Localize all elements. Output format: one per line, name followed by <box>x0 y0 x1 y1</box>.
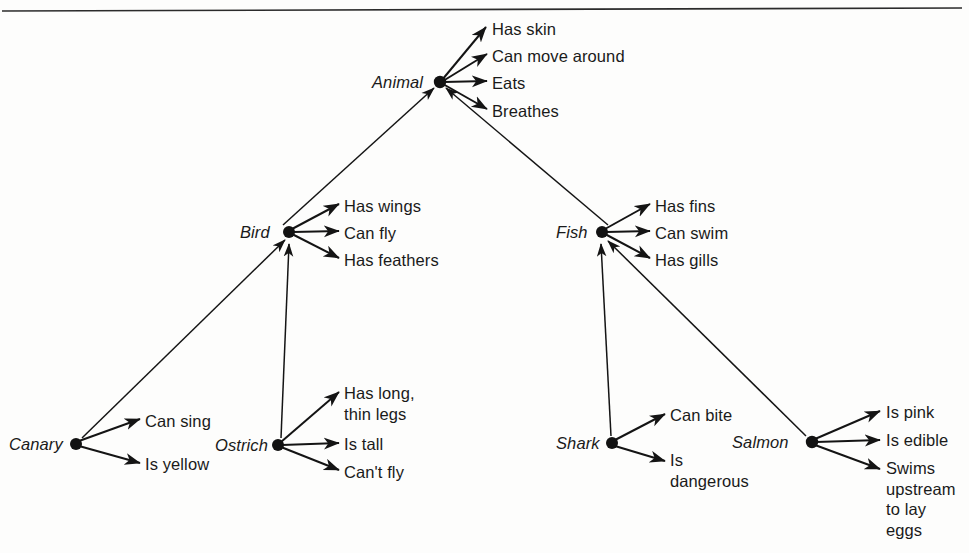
property-text-line: Breathes <box>492 101 559 122</box>
property-label-ostrich-0[interactable]: Has long,thin legs <box>344 383 415 424</box>
edge-fish-has-fins <box>605 204 650 229</box>
property-label-ostrich-2[interactable]: Can't fly <box>344 462 404 483</box>
node-dot-bird[interactable] <box>283 226 295 238</box>
concept-label-canary[interactable]: Canary <box>9 436 63 453</box>
concept-label-animal[interactable]: Animal <box>372 74 423 91</box>
property-edges-canary <box>79 419 140 463</box>
edge-animal-eats <box>444 81 487 82</box>
concept-label-ostrich[interactable]: Ostrich <box>215 437 268 454</box>
property-label-bird-1[interactable]: Can fly <box>344 223 396 244</box>
edge-bird-has-feathers <box>292 234 339 258</box>
edge-canary-is-yellow <box>79 446 140 463</box>
property-text-line: Can swim <box>655 223 728 244</box>
node-dot-shark[interactable] <box>606 437 618 449</box>
concept-label-salmon[interactable]: Salmon <box>732 434 789 451</box>
property-edges-shark <box>615 414 665 461</box>
property-text-line: Has long, <box>344 383 415 404</box>
property-edges-fish <box>605 204 650 258</box>
edge-animal-can-move-around <box>443 54 487 81</box>
property-label-animal-3[interactable]: Breathes <box>492 101 559 122</box>
property-text-line: to lay <box>886 499 956 520</box>
property-label-shark-0[interactable]: Can bite <box>670 405 732 426</box>
property-text-line: Can bite <box>670 405 732 426</box>
edge-canary-to-bird <box>82 240 285 438</box>
property-text-line: Has wings <box>344 196 421 217</box>
property-edges-bird <box>292 204 339 258</box>
property-label-bird-0[interactable]: Has wings <box>344 196 421 217</box>
edge-ostrich-to-bird <box>281 244 289 438</box>
property-text-line: Can fly <box>344 223 396 244</box>
property-label-canary-0[interactable]: Can sing <box>145 411 211 432</box>
edge-animal-has-skin <box>442 27 486 80</box>
property-text-line: thin legs <box>344 404 415 425</box>
concept-label-shark[interactable]: Shark <box>556 435 600 452</box>
property-text-line: Swims <box>886 458 956 479</box>
edge-bird-can-fly <box>293 231 339 232</box>
edge-ostrich-is-tall <box>282 443 339 445</box>
property-label-fish-0[interactable]: Has fins <box>655 196 715 217</box>
node-dot-ostrich[interactable] <box>272 439 284 451</box>
edge-shark-is-dangerous <box>615 446 665 461</box>
top-divider-rule <box>2 8 962 11</box>
property-label-fish-2[interactable]: Has gills <box>655 250 718 271</box>
edge-salmon-is-edible <box>816 440 880 442</box>
property-label-animal-2[interactable]: Eats <box>492 73 525 94</box>
property-edges-salmon <box>815 411 880 469</box>
property-label-ostrich-1[interactable]: Is tall <box>344 434 383 455</box>
property-label-salmon-1[interactable]: Is edible <box>886 430 948 451</box>
property-text-line: Has skin <box>492 19 556 40</box>
property-label-salmon-2[interactable]: Swimsupstreamto layeggs <box>886 458 956 540</box>
edge-bird-has-wings <box>292 204 339 229</box>
property-text-line: dangerous <box>670 471 749 492</box>
property-text-line: eggs <box>886 520 956 541</box>
edge-salmon-is-pink <box>815 411 880 439</box>
node-dot-fish[interactable] <box>596 226 608 238</box>
property-text-line: Is edible <box>886 430 948 451</box>
node-dot-animal[interactable] <box>434 76 446 88</box>
property-text-line: upstream <box>886 479 956 500</box>
property-text-line: Has fins <box>655 196 715 217</box>
property-edges-animal <box>442 27 487 109</box>
property-text-line: Can't fly <box>344 462 404 483</box>
edge-animal-breathes <box>443 84 487 109</box>
property-label-salmon-0[interactable]: Is pink <box>886 402 934 423</box>
node-dot-salmon[interactable] <box>806 436 818 448</box>
property-text-line: Eats <box>492 73 525 94</box>
edge-fish-has-gills <box>605 234 650 258</box>
property-text-line: Has feathers <box>344 250 439 271</box>
node-dot-canary[interactable] <box>70 438 82 450</box>
property-label-shark-1[interactable]: Isdangerous <box>670 450 749 491</box>
property-text-line: Is <box>670 450 749 471</box>
property-text-line: Is tall <box>344 434 383 455</box>
property-edges-ostrich <box>281 392 339 470</box>
edge-salmon-swims-upstream-to-lay-eggs <box>815 445 880 469</box>
property-label-animal-0[interactable]: Has skin <box>492 19 556 40</box>
property-text-line: Can sing <box>145 411 211 432</box>
edge-canary-can-sing <box>79 419 140 441</box>
concept-label-fish[interactable]: Fish <box>556 224 588 241</box>
property-label-animal-1[interactable]: Can move around <box>492 46 625 67</box>
property-text-line: Is yellow <box>145 454 209 475</box>
property-label-canary-1[interactable]: Is yellow <box>145 454 209 475</box>
edge-shark-to-fish <box>601 244 611 436</box>
property-text-line: Can move around <box>492 46 625 67</box>
edge-ostrich-has-long-thin-legs <box>281 392 339 442</box>
property-label-fish-1[interactable]: Can swim <box>655 223 728 244</box>
property-text-line: Is pink <box>886 402 934 423</box>
property-label-bird-2[interactable]: Has feathers <box>344 250 439 271</box>
edge-shark-can-bite <box>615 414 665 440</box>
concept-label-bird[interactable]: Bird <box>240 224 270 241</box>
property-text-line: Has gills <box>655 250 718 271</box>
semantic-network-diagram: Animal Bird Fish Canary Ostrich Shark Sa… <box>0 0 969 553</box>
edge-ostrich-cant-fly <box>281 447 339 470</box>
edge-fish-can-swim <box>606 231 650 232</box>
